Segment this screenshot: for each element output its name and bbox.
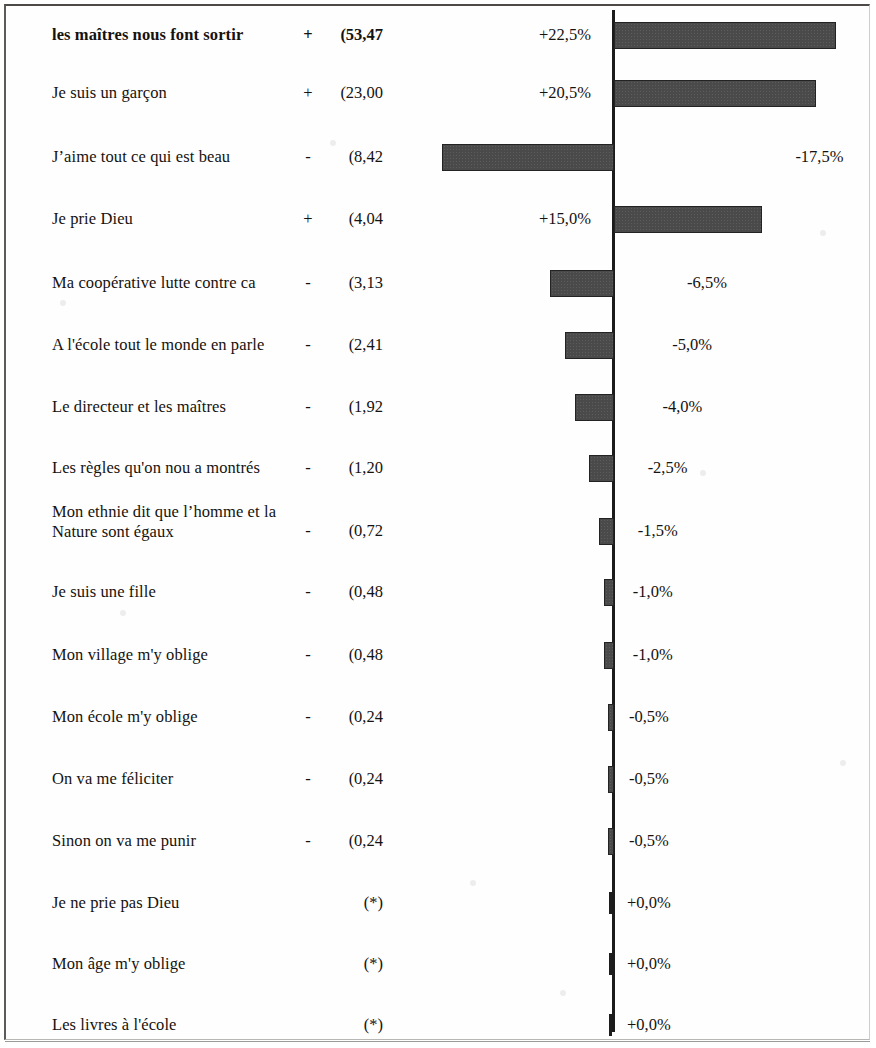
row-percentage-label: +20,5%	[539, 84, 591, 102]
chart-bar	[609, 892, 612, 914]
row-percentage-label: -1,0%	[633, 646, 673, 664]
row-percentage-label: -2,5%	[648, 459, 688, 477]
row-percentage-label: -6,5%	[687, 274, 727, 292]
paper-speckle	[120, 610, 126, 616]
chart-bar	[614, 206, 762, 233]
row-percentage-label: +0,0%	[627, 894, 671, 912]
chart-bar	[550, 270, 614, 297]
row-percentage-label: -0,5%	[629, 832, 669, 850]
chart-bar	[614, 22, 836, 49]
row-category-label: Je suis une fille	[52, 582, 292, 602]
row-percentage-label: +22,5%	[539, 26, 591, 44]
row-statistic-value: (2,41	[263, 335, 383, 355]
row-category-label: Mon ethnie dit que l’homme et la Nature …	[52, 502, 292, 542]
row-statistic-value: (4,04	[263, 209, 383, 229]
row-statistic-value: (*)	[263, 893, 383, 913]
row-percentage-label: +0,0%	[627, 955, 671, 973]
row-statistic-value: (0,48	[263, 582, 383, 602]
row-percentage-label: +15,0%	[539, 210, 591, 228]
row-category-label: A l'école tout le monde en parle	[52, 335, 292, 355]
chart-bar	[575, 394, 614, 421]
row-category-label: Je prie Dieu	[52, 209, 292, 229]
row-statistic-value: (0,48	[263, 645, 383, 665]
row-statistic-value: (0,24	[263, 707, 383, 727]
row-percentage-label: -17,5%	[795, 148, 843, 166]
chart-bar	[608, 766, 614, 793]
row-percentage-label: -0,5%	[629, 770, 669, 788]
row-category-label: Je suis un garçon	[52, 83, 292, 103]
paper-speckle	[820, 230, 826, 236]
chart-bar	[609, 953, 612, 975]
row-percentage-label: -4,0%	[662, 398, 702, 416]
paper-speckle	[700, 470, 706, 476]
row-percentage-label: -1,5%	[638, 522, 678, 540]
chart-bar	[608, 704, 614, 731]
row-category-label: Les livres à l'école	[52, 1015, 292, 1035]
row-category-label: Mon âge m'y oblige	[52, 954, 292, 974]
paper-speckle	[330, 140, 336, 146]
chart-bar	[565, 332, 614, 359]
row-statistic-value: (0,24	[263, 769, 383, 789]
row-category-label: les maîtres nous font sortir	[52, 25, 292, 45]
row-statistic-value: (*)	[263, 954, 383, 974]
row-category-label: Les règles qu'on nou a montrés	[52, 458, 292, 478]
row-percentage-label: -1,0%	[633, 583, 673, 601]
chart-bar	[599, 518, 614, 545]
row-category-label: Ma coopérative lutte contre ca	[52, 273, 292, 293]
paper-speckle	[470, 880, 476, 886]
row-category-label: Sinon on va me punir	[52, 831, 292, 851]
chart-bar	[442, 144, 614, 171]
row-statistic-value: (0,24	[263, 831, 383, 851]
paper-speckle	[60, 300, 66, 306]
row-category-label: Mon village m'y oblige	[52, 645, 292, 665]
row-percentage-label: -0,5%	[629, 708, 669, 726]
chart-bar	[604, 579, 614, 606]
row-category-label: Je ne prie pas Dieu	[52, 893, 292, 913]
row-statistic-value: (0,72	[263, 521, 383, 541]
row-category-label: Mon école m'y oblige	[52, 707, 292, 727]
row-percentage-label: +0,0%	[627, 1016, 671, 1034]
row-statistic-value: (3,13	[263, 273, 383, 293]
row-category-label: On va me féliciter	[52, 769, 292, 789]
chart-bar	[609, 1014, 612, 1036]
row-statistic-value: (8,42	[263, 147, 383, 167]
row-category-label: J’aime tout ce qui est beau	[52, 147, 292, 167]
row-category-label: Le directeur et les maîtres	[52, 397, 292, 417]
paper-speckle	[560, 990, 566, 996]
row-statistic-value: (1,92	[263, 397, 383, 417]
row-percentage-label: -5,0%	[672, 336, 712, 354]
chart-bar	[589, 455, 614, 482]
chart-bar	[608, 828, 614, 855]
row-statistic-value: (53,47	[263, 25, 383, 45]
chart-bar	[614, 80, 816, 107]
row-statistic-value: (1,20	[263, 458, 383, 478]
chart-bar	[604, 642, 614, 669]
row-statistic-value: (*)	[263, 1015, 383, 1035]
paper-speckle	[840, 760, 846, 766]
diverging-bar-chart: les maîtres nous font sortir+(53,47+22,5…	[0, 0, 876, 1048]
row-statistic-value: (23,00	[263, 83, 383, 103]
